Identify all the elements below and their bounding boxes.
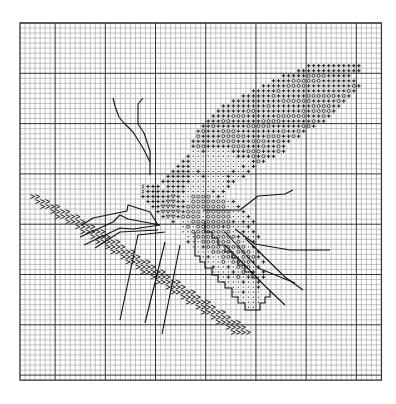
circle-symbol-icon — [317, 104, 320, 107]
cross-symbol-icon — [161, 215, 164, 218]
cross-symbol-icon — [237, 124, 240, 127]
circle-symbol-icon — [302, 125, 305, 128]
cross-symbol-icon — [242, 140, 245, 143]
cross-symbol-icon — [282, 124, 285, 127]
dot-symbol-icon — [213, 151, 214, 152]
circle-symbol-icon — [222, 240, 225, 243]
circle-symbol-icon — [277, 120, 280, 123]
dot-symbol-icon — [248, 236, 249, 237]
cross-symbol-icon — [322, 89, 325, 92]
dot-symbol-icon — [258, 301, 259, 302]
cross-symbol-icon — [227, 114, 230, 117]
cross-symbol-icon — [176, 190, 179, 193]
circle-symbol-icon — [242, 245, 245, 248]
chevron-symbol-icon — [221, 310, 225, 314]
circle-symbol-icon — [212, 225, 215, 228]
cross-symbol-icon — [332, 74, 335, 77]
chevron-symbol-icon — [136, 260, 140, 264]
dot-symbol-icon — [228, 166, 229, 167]
cross-symbol-icon — [252, 165, 255, 168]
dot-symbol-icon — [182, 226, 183, 227]
cross-symbol-icon — [277, 129, 280, 132]
cross-symbol-icon — [222, 114, 225, 117]
dot-symbol-icon — [187, 201, 188, 202]
chevron-symbol-icon — [166, 275, 170, 279]
cross-symbol-icon — [227, 275, 230, 278]
dot-symbol-icon — [223, 181, 224, 182]
dot-symbol-icon — [208, 251, 209, 252]
dot-symbol-icon — [187, 221, 188, 222]
cross-symbol-icon — [317, 64, 320, 67]
dot-symbol-icon — [248, 166, 249, 167]
circle-symbol-icon — [252, 125, 255, 128]
circle-symbol-icon — [302, 99, 305, 102]
circle-symbol-icon — [262, 155, 265, 158]
cross-symbol-icon — [237, 150, 240, 153]
cross-symbol-icon — [352, 69, 355, 72]
circle-symbol-icon — [222, 210, 225, 213]
dot-symbol-icon — [223, 156, 224, 157]
chevron-symbol-icon — [201, 310, 205, 314]
dot-symbol-icon — [233, 216, 234, 217]
cross-symbol-icon — [202, 175, 205, 178]
circle-symbol-icon — [297, 130, 300, 133]
cross-symbol-icon — [297, 104, 300, 107]
cross-symbol-icon — [217, 195, 220, 198]
cross-symbol-icon — [287, 119, 290, 122]
circle-symbol-icon — [217, 200, 220, 203]
dot-symbol-icon — [238, 166, 239, 167]
dot-symbol-icon — [228, 171, 229, 172]
circle-symbol-icon — [237, 240, 240, 243]
cross-symbol-icon — [237, 205, 240, 208]
dot-symbol-icon — [223, 196, 224, 197]
cross-symbol-icon — [166, 180, 169, 183]
circle-symbol-icon — [302, 110, 305, 113]
cross-symbol-icon — [227, 104, 230, 107]
cross-symbol-icon — [322, 79, 325, 82]
cross-symbol-icon — [156, 195, 159, 198]
cross-symbol-icon — [277, 79, 280, 82]
dot-symbol-icon — [248, 296, 249, 297]
chevron-symbol-icon — [201, 305, 205, 309]
cross-symbol-icon — [272, 99, 275, 102]
cross-symbol-icon — [166, 195, 169, 198]
chevron-symbol-icon — [65, 210, 69, 214]
circle-symbol-icon — [217, 245, 220, 248]
cross-symbol-icon — [207, 145, 210, 148]
dot-symbol-icon — [218, 266, 219, 267]
dot-symbol-icon — [223, 151, 224, 152]
chevron-symbol-icon — [216, 315, 220, 319]
dot-symbol-icon — [238, 291, 239, 292]
cross-symbol-icon — [282, 84, 285, 87]
dot-symbol-icon — [228, 156, 229, 157]
dot-symbol-icon — [187, 196, 188, 197]
cross-symbol-icon — [252, 129, 255, 132]
dot-symbol-icon — [213, 161, 214, 162]
chevron-symbol-icon — [231, 325, 235, 329]
dot-symbol-icon — [218, 156, 219, 157]
circle-symbol-icon — [222, 220, 225, 223]
cross-symbol-icon — [171, 220, 174, 223]
cross-symbol-icon — [161, 200, 164, 203]
cross-symbol-icon — [342, 64, 345, 67]
chevron-symbol-icon — [126, 260, 130, 264]
circle-symbol-icon — [287, 99, 290, 102]
cross-symbol-icon — [237, 104, 240, 107]
dot-symbol-icon — [218, 261, 219, 262]
cross-symbol-icon — [337, 104, 340, 107]
cross-symbol-icon — [292, 109, 295, 112]
circle-symbol-icon — [192, 220, 195, 223]
dot-symbol-icon — [243, 241, 244, 242]
dot-symbol-icon — [243, 276, 244, 277]
cross-symbol-icon — [181, 160, 184, 163]
dot-symbol-icon — [253, 286, 254, 287]
cross-symbol-icon — [202, 134, 205, 137]
circle-symbol-icon — [277, 115, 280, 118]
chevron-symbol-icon — [141, 265, 145, 269]
dot-symbol-icon — [233, 176, 234, 177]
cross-symbol-icon — [181, 200, 184, 203]
chevron-symbol-icon — [86, 225, 90, 229]
cross-symbol-icon — [242, 129, 245, 132]
circle-symbol-icon — [192, 195, 195, 198]
cross-symbol-icon — [277, 104, 280, 107]
